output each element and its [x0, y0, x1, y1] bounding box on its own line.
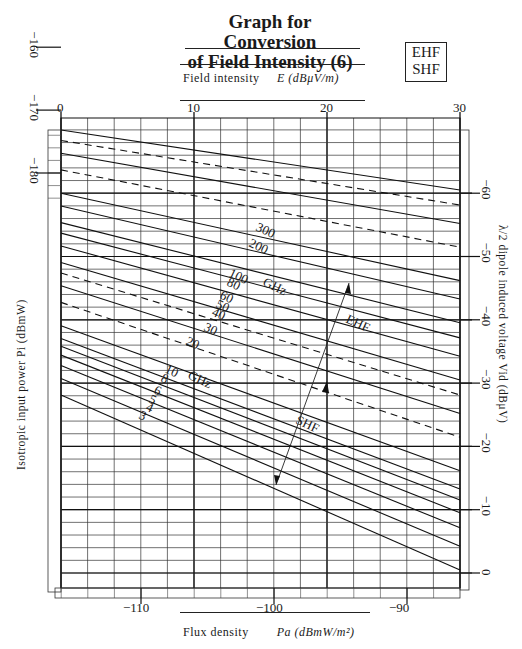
left-tick-label: −160: [27, 31, 42, 58]
left-tick-label: −170: [27, 94, 42, 121]
frequency-line-100ghz: [61, 193, 460, 280]
flux-label-rule: [180, 612, 370, 613]
frequency-line-200ghz: [61, 153, 460, 223]
left-tick-label: −180: [27, 157, 42, 184]
ehf-annotation: EHF: [344, 311, 373, 335]
frequency-line-4ghz: [61, 378, 460, 546]
left-axis-label: Isotropic input power Pi (dBmW): [15, 299, 27, 470]
bottom-axis-label: Flux density Pa (dBmW/m²): [183, 625, 355, 640]
nomogram-plot: 0102030−110−100−90−180−170−160−150−140−1…: [0, 0, 522, 649]
frequency-line-10ghz: [61, 326, 460, 471]
bottom-axis-label-text: Flux density: [183, 625, 249, 639]
left-scale-strip: [48, 130, 61, 592]
right-tick-label: −20: [479, 432, 494, 452]
frequency-line-40ghz: [61, 246, 460, 356]
bottom-tick-label: −90: [389, 600, 409, 615]
right-tick-label: −40: [479, 306, 494, 326]
top-tick-label: 10: [187, 100, 200, 115]
frequency-line-30ghz: [61, 263, 460, 381]
right-tick-label: 0: [479, 569, 494, 576]
right-tick-label: −10: [479, 496, 494, 516]
bottom-scale-strip: [55, 588, 460, 598]
right-axis-label: λ/2 dipole induced voltage Vid (dBμV): [497, 225, 509, 423]
frequency-line-250ghz: [61, 140, 460, 205]
top-tick-label: 30: [453, 100, 466, 115]
frequency-line-8ghz: [61, 339, 460, 490]
top-tick-label: 20: [320, 100, 333, 115]
right-tick-label: −60: [479, 179, 494, 199]
right-tick-label: −50: [479, 243, 494, 263]
top-tick-label: 0: [57, 100, 64, 115]
right-scale-strip: [460, 130, 469, 590]
frequency-line-25ghz: [61, 273, 460, 395]
frequency-line-20ghz: [61, 286, 460, 414]
bottom-tick-label: −110: [123, 600, 149, 615]
right-tick-label: −30: [479, 369, 494, 389]
bottom-axis-label-symbol: Pa (dBmW/m²): [277, 625, 355, 639]
